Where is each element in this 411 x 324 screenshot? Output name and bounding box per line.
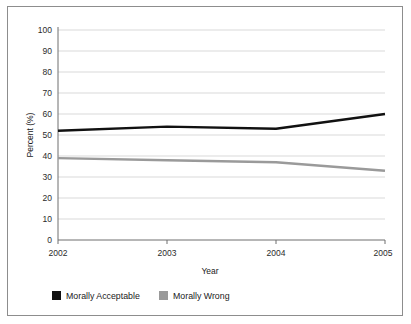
legend-swatch-morally-wrong — [159, 291, 168, 300]
chart-legend: Morally Acceptable Morally Wrong — [52, 291, 230, 301]
y-tick-label-80: 80 — [43, 67, 53, 77]
x-tickmarks — [58, 240, 385, 244]
x-tick-label-2003: 2003 — [158, 248, 177, 258]
x-tick-label-2005: 2005 — [374, 248, 393, 258]
line-chart: 100 90 80 70 60 50 40 30 20 10 0 2002 20… — [0, 0, 411, 324]
y-tick-label-70: 70 — [43, 88, 53, 98]
y-tick-label-10: 10 — [43, 214, 53, 224]
y-tick-labels: 100 90 80 70 60 50 40 30 20 10 0 — [38, 25, 52, 245]
y-tick-label-30: 30 — [43, 172, 53, 182]
y-tick-label-90: 90 — [43, 46, 53, 56]
x-axis-title: Year — [201, 266, 218, 276]
chart-figure: 100 90 80 70 60 50 40 30 20 10 0 2002 20… — [0, 0, 411, 324]
x-tick-label-2004: 2004 — [267, 248, 286, 258]
legend-label-morally-acceptable: Morally Acceptable — [66, 291, 140, 301]
x-tick-labels: 2002 2003 2004 2005 — [49, 248, 393, 258]
y-axis-title: Percent (%) — [25, 112, 35, 157]
legend-swatch-morally-acceptable — [52, 291, 61, 300]
y-tick-label-100: 100 — [38, 25, 52, 35]
y-tick-label-20: 20 — [43, 193, 53, 203]
y-tick-label-40: 40 — [43, 151, 53, 161]
series-line-morally-wrong — [58, 158, 385, 171]
y-tick-label-50: 50 — [43, 130, 53, 140]
legend-label-morally-wrong: Morally Wrong — [173, 291, 230, 301]
gridlines — [58, 30, 385, 219]
y-tick-label-0: 0 — [47, 235, 52, 245]
series-line-morally-acceptable — [58, 114, 385, 131]
y-tick-label-60: 60 — [43, 109, 53, 119]
x-tick-label-2002: 2002 — [49, 248, 68, 258]
